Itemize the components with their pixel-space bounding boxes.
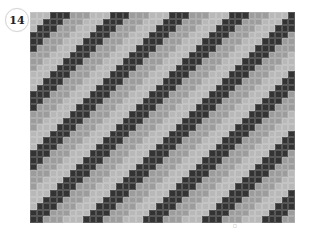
- pattern-cell: [63, 150, 70, 157]
- pattern-cell: [189, 137, 196, 144]
- pattern-cell: [235, 118, 242, 125]
- pattern-cell: [235, 164, 242, 171]
- pattern-cell: [242, 183, 249, 190]
- pattern-cell: [136, 38, 143, 45]
- pattern-cell: [37, 12, 44, 19]
- pattern-cell: [83, 190, 90, 197]
- pattern-cell: [163, 197, 170, 204]
- pattern-cell: [235, 170, 242, 177]
- pattern-cell: [209, 210, 216, 217]
- pattern-cell: [83, 98, 90, 105]
- pattern-cell: [96, 65, 103, 72]
- pattern-cell: [275, 65, 282, 72]
- pattern-cell: [242, 118, 249, 125]
- pattern-cell: [57, 210, 64, 217]
- pattern-cell: [103, 91, 110, 98]
- pattern-cell: [96, 203, 103, 210]
- pattern-cell: [76, 157, 83, 164]
- pattern-cell: [70, 12, 77, 19]
- pattern-cell: [143, 52, 150, 59]
- pattern-cell: [229, 157, 236, 164]
- pattern-cell: [57, 197, 64, 204]
- pattern-cell: [43, 78, 50, 85]
- pattern-cell: [255, 71, 262, 78]
- pattern-cell: [235, 190, 242, 197]
- pattern-cell: [143, 190, 150, 197]
- pattern-cell: [116, 150, 123, 157]
- pattern-cell: [242, 197, 249, 204]
- pattern-cell: [37, 203, 44, 210]
- pattern-cell: [129, 190, 136, 197]
- pattern-cell: [255, 38, 262, 45]
- pattern-cell: [216, 65, 223, 72]
- pattern-cell: [129, 19, 136, 26]
- pattern-cell: [116, 78, 123, 85]
- pattern-cell: [116, 137, 123, 144]
- pattern-cell: [63, 131, 70, 138]
- pattern-cell: [129, 98, 136, 105]
- pattern-cell: [123, 144, 130, 151]
- pattern-cell: [76, 111, 83, 118]
- pattern-cell: [242, 144, 249, 151]
- pattern-cell: [57, 124, 64, 131]
- pattern-cell: [235, 71, 242, 78]
- pattern-cell: [76, 104, 83, 111]
- pattern-cell: [83, 157, 90, 164]
- pattern-cell: [202, 131, 209, 138]
- pattern-cell: [90, 137, 97, 144]
- pattern-cell: [149, 12, 156, 19]
- pattern-cell: [249, 25, 256, 32]
- pattern-cell: [37, 111, 44, 118]
- pattern-cell: [116, 197, 123, 204]
- pattern-cell: [57, 144, 64, 151]
- pattern-cell: [90, 58, 97, 65]
- pattern-cell: [235, 197, 242, 204]
- pattern-cell: [116, 164, 123, 171]
- pattern-cell: [136, 58, 143, 65]
- pattern-cell: [235, 210, 242, 217]
- pattern-cell: [182, 150, 189, 157]
- pattern-cell: [282, 118, 289, 125]
- pattern-cell: [216, 78, 223, 85]
- pattern-cell: [103, 52, 110, 59]
- pattern-cell: [156, 216, 163, 223]
- pattern-cell: [70, 183, 77, 190]
- pattern-cell: [70, 203, 77, 210]
- pattern-cell: [176, 25, 183, 32]
- pattern-cell: [50, 71, 57, 78]
- pattern-cell: [143, 170, 150, 177]
- pattern-cell: [262, 157, 269, 164]
- pattern-cell: [176, 19, 183, 26]
- pattern-cell: [70, 52, 77, 59]
- pattern-cell: [176, 91, 183, 98]
- pattern-cell: [43, 19, 50, 26]
- pattern-cell: [182, 177, 189, 184]
- pattern-cell: [216, 91, 223, 98]
- pattern-cell: [176, 164, 183, 171]
- pattern-cell: [143, 183, 150, 190]
- pattern-cell: [182, 170, 189, 177]
- pattern-cell: [43, 85, 50, 92]
- pattern-cell: [149, 164, 156, 171]
- pattern-cell: [123, 197, 130, 204]
- pattern-cell: [50, 157, 57, 164]
- pattern-cell: [50, 104, 57, 111]
- pattern-cell: [255, 52, 262, 59]
- pattern-cell: [63, 144, 70, 151]
- pattern-cell: [30, 203, 37, 210]
- pattern-cell: [249, 104, 256, 111]
- pattern-cell: [275, 150, 282, 157]
- pattern-cell: [262, 164, 269, 171]
- pattern-cell: [90, 124, 97, 131]
- pattern-cell: [229, 164, 236, 171]
- pattern-cell: [50, 25, 57, 32]
- pattern-cell: [30, 71, 37, 78]
- pattern-cell: [83, 144, 90, 151]
- pattern-cell: [110, 216, 117, 223]
- pattern-cell: [96, 210, 103, 217]
- pattern-cell: [255, 210, 262, 217]
- pattern-cell: [275, 38, 282, 45]
- pattern-cell: [76, 177, 83, 184]
- pattern-cell: [50, 131, 57, 138]
- pattern-cell: [90, 98, 97, 105]
